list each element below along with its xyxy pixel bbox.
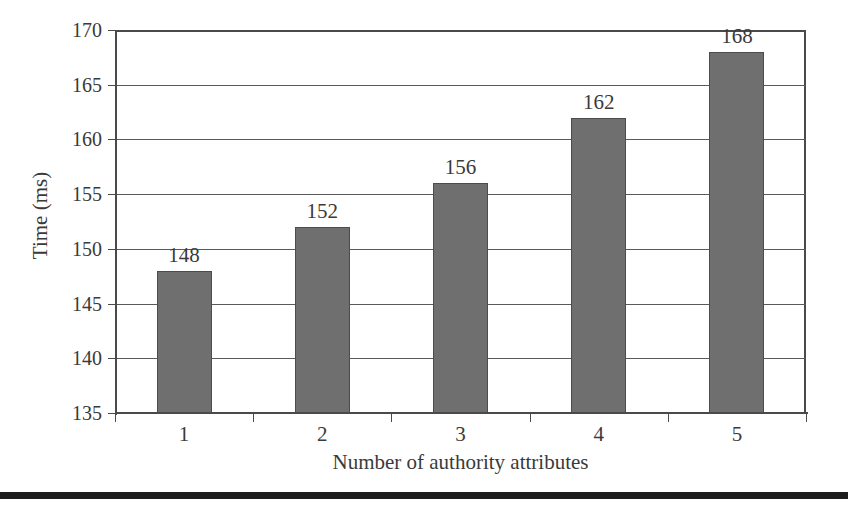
x-tick-label: 2 [292, 424, 352, 445]
x-tick-label: 1 [154, 424, 214, 445]
x-tick-mark [806, 413, 807, 422]
bar [295, 227, 350, 413]
bar [709, 52, 764, 413]
x-tick-mark [115, 413, 116, 422]
bar [571, 118, 626, 413]
y-axis-title: Time (ms) [30, 116, 51, 316]
y-tick-label: 165 [40, 75, 102, 95]
plot-border-right [804, 30, 806, 413]
y-tick-label: 140 [40, 348, 102, 368]
gridline [115, 139, 806, 140]
x-tick-label: 4 [569, 424, 629, 445]
y-axis-line [115, 30, 117, 415]
y-tick-mark [108, 358, 116, 359]
y-tick-label: 135 [40, 403, 102, 423]
y-tick-mark [108, 85, 116, 86]
bar-value-label: 156 [421, 157, 501, 178]
bar-chart-figure: 135140145150155160165170 12345 148152156… [0, 0, 848, 506]
x-tick-label: 5 [707, 424, 767, 445]
x-tick-mark [530, 413, 531, 422]
footer-rule [0, 492, 848, 499]
x-axis-title: Number of authority attributes [115, 452, 806, 473]
x-axis-line [115, 412, 808, 414]
gridline [115, 85, 806, 86]
bar [433, 183, 488, 413]
bar-value-label: 152 [282, 201, 362, 222]
y-tick-mark [108, 194, 116, 195]
y-tick-mark [108, 30, 116, 31]
x-tick-mark [391, 413, 392, 422]
y-tick-mark [108, 249, 116, 250]
x-tick-label: 3 [431, 424, 491, 445]
plot-area [115, 30, 806, 413]
x-tick-mark [253, 413, 254, 422]
x-tick-mark [668, 413, 669, 422]
y-tick-mark [108, 139, 116, 140]
bar [157, 271, 212, 413]
bar-value-label: 148 [144, 245, 224, 266]
bar-value-label: 168 [697, 26, 777, 47]
bar-value-label: 162 [559, 92, 639, 113]
y-tick-mark [108, 304, 116, 305]
y-tick-label: 170 [40, 20, 102, 40]
